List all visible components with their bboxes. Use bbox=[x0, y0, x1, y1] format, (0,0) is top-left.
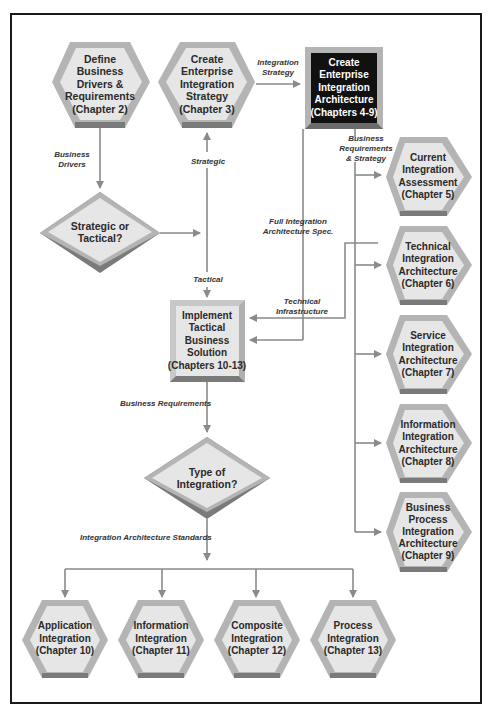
node-line: Tactical bbox=[189, 322, 226, 335]
edge-label-line: Business bbox=[50, 150, 94, 160]
node-line: Architecture bbox=[399, 266, 458, 279]
edge-label-business-drivers: Business Drivers bbox=[50, 150, 94, 170]
node-application-integration[interactable]: Application Integration (Chapter 10) bbox=[26, 606, 104, 672]
edge-label-strategic: Strategic bbox=[188, 157, 228, 167]
node-line: Business bbox=[77, 65, 124, 78]
node-implement-tactical[interactable]: Implement Tactical Business Solution (Ch… bbox=[172, 306, 242, 376]
node-line: Integration bbox=[402, 342, 454, 355]
node-information-integration[interactable]: Information Integration (Chapter 11) bbox=[122, 606, 200, 672]
node-technical-arch[interactable]: Technical Integration Architecture (Chap… bbox=[390, 232, 466, 299]
node-line: Type of bbox=[189, 466, 226, 479]
node-create-strategy[interactable]: Create Enterprise Integration Strategy (… bbox=[162, 48, 252, 120]
edge-label-line: Integration Architecture Standards bbox=[80, 533, 200, 543]
node-line: Enterprise bbox=[181, 65, 233, 78]
node-line: Architecture bbox=[399, 355, 458, 368]
edge-label-business-requirements: Business Requirements bbox=[120, 399, 200, 409]
edge-label-line: Strategic bbox=[188, 157, 228, 167]
node-line: Composite bbox=[231, 620, 283, 633]
node-line: (Chapters 10-13) bbox=[168, 360, 246, 373]
node-composite-integration[interactable]: Composite Integration (Chapter 12) bbox=[218, 606, 296, 672]
node-line: (Chapters 4-9) bbox=[310, 107, 377, 120]
node-line: Enterprise bbox=[319, 69, 368, 82]
node-line: (Chapter 11) bbox=[132, 645, 190, 658]
node-line: Architecture bbox=[315, 94, 374, 107]
node-line: Information bbox=[134, 620, 189, 633]
node-line: Strategic or bbox=[71, 220, 129, 233]
node-line: Current bbox=[410, 152, 446, 165]
node-line: Process bbox=[409, 514, 448, 526]
node-line: (Chapter 6) bbox=[402, 278, 455, 291]
edge-label-line: Requirements bbox=[336, 144, 396, 154]
edge-label-line: & Strategy bbox=[336, 154, 396, 164]
edge-label-business-req-strategy: Business Requirements & Strategy bbox=[336, 134, 396, 164]
node-line: Architecture bbox=[399, 538, 458, 550]
node-line: Integration bbox=[402, 431, 454, 444]
node-line: (Chapter 8) bbox=[402, 456, 455, 469]
node-line: Business bbox=[185, 335, 229, 348]
edge-label-line: Strategy bbox=[256, 68, 300, 78]
edge-label-full-arch-spec: Full Integration Architecture Spec. bbox=[262, 217, 334, 237]
edge-label-line: Integration bbox=[256, 58, 300, 68]
edge-label-line: Business bbox=[336, 134, 396, 144]
node-business-process-arch[interactable]: Business Process Integration Architectur… bbox=[390, 498, 466, 566]
node-line: (Chapter 9) bbox=[402, 550, 455, 562]
node-line: (Chapter 3) bbox=[179, 103, 234, 116]
node-line: Integration bbox=[180, 78, 234, 91]
node-line: Service bbox=[410, 330, 446, 343]
node-line: Define bbox=[84, 53, 116, 66]
node-line: Assessment bbox=[399, 177, 458, 190]
node-strategic-or-tactical[interactable]: Strategic or Tactical? bbox=[55, 212, 145, 252]
node-line: Business bbox=[406, 502, 450, 514]
node-line: (Chapter 10) bbox=[36, 645, 94, 658]
node-line: Integration? bbox=[177, 478, 238, 491]
node-line: Tactical? bbox=[78, 232, 123, 245]
node-line: Architecture bbox=[399, 444, 458, 457]
node-line: (Chapter 5) bbox=[402, 189, 455, 202]
edge-label-line: Business Requirements bbox=[120, 399, 200, 409]
edge-label-line: Infrastructure bbox=[272, 307, 332, 317]
node-line: Requirements bbox=[65, 90, 135, 103]
node-line: Create bbox=[328, 57, 359, 70]
node-line: Drivers & bbox=[77, 78, 124, 91]
node-type-of-integration[interactable]: Type of Integration? bbox=[162, 458, 252, 498]
node-line: Implement bbox=[182, 310, 232, 323]
edge-label-line: Architecture Spec. bbox=[262, 227, 334, 237]
edge-label-technical-infrastructure: Technical Infrastructure bbox=[272, 297, 332, 317]
node-current-assessment[interactable]: Current Integration Assessment (Chapter … bbox=[390, 143, 466, 210]
edge-label-line: Tactical bbox=[188, 275, 228, 285]
node-line: Information bbox=[401, 419, 456, 432]
edge-label-line: Drivers bbox=[50, 160, 94, 170]
node-line: (Chapter 7) bbox=[402, 367, 455, 380]
node-line: Strategy bbox=[186, 90, 228, 103]
node-line: Create bbox=[191, 53, 224, 66]
node-line: Integration bbox=[402, 253, 454, 266]
node-information-arch[interactable]: Information Integration Architecture (Ch… bbox=[390, 410, 466, 477]
node-define-business[interactable]: Define Business Drivers & Requirements (… bbox=[55, 48, 145, 120]
node-line: (Chapter 2) bbox=[72, 103, 127, 116]
edge-label-tactical: Tactical bbox=[188, 275, 228, 285]
node-line: Integration bbox=[39, 633, 91, 646]
node-line: Application bbox=[38, 620, 92, 633]
edge-label-line: Technical bbox=[272, 297, 332, 307]
node-line: Technical bbox=[405, 241, 450, 254]
node-line: (Chapter 13) bbox=[324, 645, 382, 658]
edge-label-line: Full Integration bbox=[262, 217, 334, 227]
node-line: Integration bbox=[135, 633, 187, 646]
node-line: Solution bbox=[187, 347, 227, 360]
node-process-integration[interactable]: Process Integration (Chapter 13) bbox=[314, 606, 392, 672]
node-line: Integration bbox=[231, 633, 283, 646]
node-line: Integration bbox=[318, 82, 370, 95]
edge-label-integration-strategy: Integration Strategy bbox=[256, 58, 300, 78]
node-line: Process bbox=[334, 620, 373, 633]
node-line: Integration bbox=[402, 526, 454, 538]
node-line: Integration bbox=[327, 633, 379, 646]
node-line: (Chapter 12) bbox=[228, 645, 286, 658]
edge-label-arch-standards: Integration Architecture Standards bbox=[80, 533, 200, 543]
node-line: Integration bbox=[402, 164, 454, 177]
node-create-architecture[interactable]: Create Enterprise Integration Architectu… bbox=[311, 53, 377, 123]
node-service-arch[interactable]: Service Integration Architecture (Chapte… bbox=[390, 321, 466, 388]
